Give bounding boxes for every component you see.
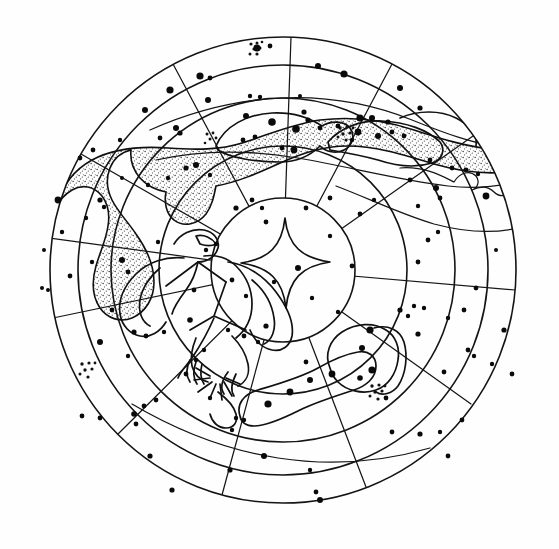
- star-point: [340, 70, 347, 77]
- star-point: [375, 133, 381, 139]
- star-point: [442, 370, 447, 375]
- star-point: [357, 375, 363, 381]
- star-point: [208, 396, 212, 400]
- star-point: [184, 372, 189, 377]
- star-point: [230, 428, 234, 432]
- eagle-lower-hook: [210, 392, 237, 428]
- hour-line-8: [53, 270, 283, 318]
- star-point: [258, 95, 262, 99]
- star-point: [97, 339, 103, 345]
- star-point: [256, 340, 260, 344]
- inner-circle: [211, 198, 355, 342]
- star-point: [158, 136, 163, 141]
- star-point: [147, 453, 152, 458]
- star-point: [359, 345, 365, 351]
- hour-line-7: [50, 238, 283, 270]
- star-point: [301, 109, 306, 114]
- star-point: [483, 193, 490, 200]
- star-point: [272, 280, 276, 284]
- star-point: [298, 94, 302, 98]
- star-point: [162, 330, 166, 334]
- star-point: [142, 404, 147, 409]
- star-point: [328, 196, 333, 201]
- star-point: [368, 366, 375, 373]
- star-point: [126, 354, 130, 358]
- star-point: [412, 304, 416, 308]
- star-point: [305, 117, 310, 122]
- star-point: [144, 334, 149, 339]
- star-point: [426, 238, 431, 243]
- star-point: [169, 487, 174, 492]
- star-point: [474, 286, 479, 291]
- star-point: [406, 314, 410, 318]
- star-point: [372, 198, 376, 202]
- star-point: [292, 125, 300, 133]
- star-point: [194, 358, 198, 362]
- star-point: [102, 205, 106, 209]
- star-point: [208, 76, 213, 81]
- star-point: [68, 274, 73, 279]
- star-point: [192, 288, 197, 293]
- star-point: [350, 264, 355, 269]
- star-point: [310, 296, 314, 300]
- star-point: [450, 166, 455, 171]
- star-point: [84, 216, 88, 220]
- star-point: [177, 130, 182, 135]
- star-point: [490, 362, 494, 366]
- star-point: [317, 497, 323, 503]
- star-point: [315, 63, 321, 69]
- star-point: [287, 389, 294, 396]
- star-point: [46, 288, 50, 292]
- star-point: [205, 97, 211, 103]
- star-point: [242, 418, 246, 422]
- star-point: [264, 220, 269, 225]
- star-point: [55, 197, 62, 204]
- hour-line-1: [283, 270, 515, 290]
- star-point: [166, 176, 170, 180]
- star-point: [263, 323, 268, 328]
- star-point: [260, 206, 264, 210]
- star-point: [142, 107, 148, 113]
- star-point: [98, 416, 103, 421]
- star-point: [196, 72, 203, 79]
- star-point: [385, 119, 390, 124]
- star-point: [416, 204, 420, 208]
- star-point: [227, 467, 232, 472]
- star-point: [460, 418, 465, 423]
- star-point: [336, 310, 340, 314]
- star-point: [156, 240, 160, 244]
- eagle-connector-b: [190, 282, 246, 330]
- star-point: [193, 162, 199, 168]
- star-point: [466, 348, 471, 353]
- star-point: [433, 185, 439, 191]
- four-pointed-star-glyph: [241, 218, 330, 308]
- star-point: [291, 147, 298, 154]
- boundary-right-lower: [336, 186, 518, 231]
- star-point: [226, 328, 230, 332]
- star-point: [416, 260, 421, 265]
- star-chart-svg: [0, 0, 559, 549]
- star-point: [208, 173, 212, 177]
- star-point: [253, 135, 258, 140]
- star-point: [280, 146, 285, 151]
- star-point: [446, 316, 450, 320]
- star-point: [417, 105, 422, 110]
- star-point: [214, 242, 218, 246]
- star-point: [134, 422, 139, 427]
- star-point: [462, 308, 467, 313]
- star-point: [202, 348, 206, 352]
- star-point: [242, 334, 247, 339]
- eagle-wing-right-inner: [252, 280, 275, 344]
- star-point: [308, 468, 312, 472]
- star-point: [428, 158, 433, 163]
- star-point: [97, 197, 102, 202]
- star-point: [78, 156, 83, 161]
- cluster-lower-left: [79, 361, 97, 378]
- eagle-beak: [196, 235, 216, 245]
- star-point: [154, 398, 159, 403]
- star-point: [253, 44, 260, 51]
- star-point: [415, 331, 420, 336]
- star-point: [250, 198, 255, 203]
- star-point: [436, 230, 440, 234]
- star-point: [476, 172, 480, 176]
